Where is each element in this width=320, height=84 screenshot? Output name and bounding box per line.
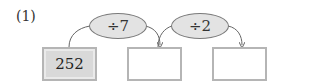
operation-text: ÷7: [107, 17, 129, 35]
start-value: 252: [55, 55, 84, 73]
start-value-box: 252: [42, 47, 97, 81]
arrow-1: [145, 26, 160, 45]
answer-box-2[interactable]: [212, 47, 267, 81]
operation-text: ÷2: [189, 17, 211, 35]
answer-box-1[interactable]: [127, 47, 182, 81]
connector-line: [69, 26, 90, 47]
operation-divide-2: ÷2: [171, 13, 229, 39]
operation-divide-7: ÷7: [89, 13, 147, 39]
arrow-2: [228, 26, 242, 45]
